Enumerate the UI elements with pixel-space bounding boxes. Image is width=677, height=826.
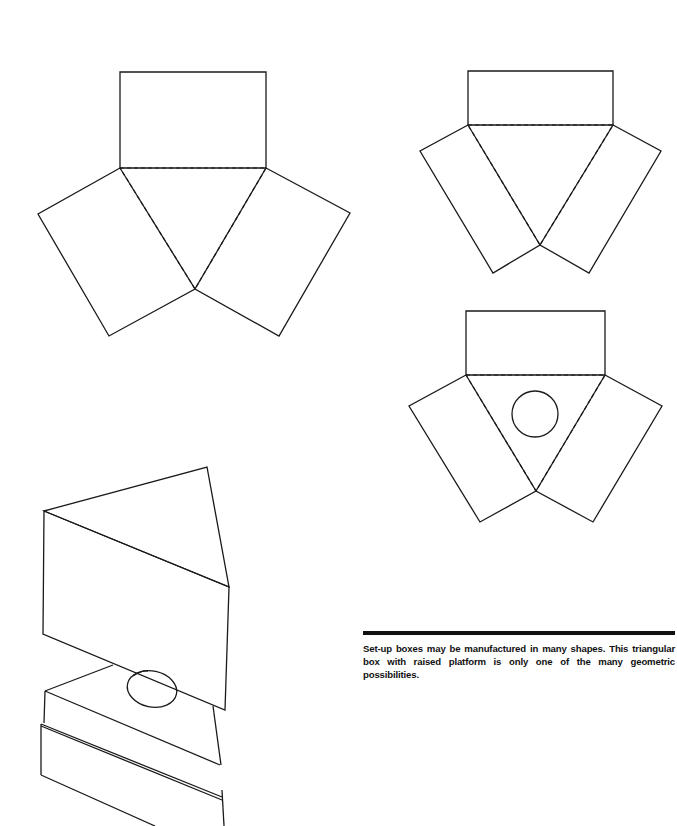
net-hole-top-panel: [466, 311, 605, 375]
net-large-fold-lines: [120, 168, 266, 289]
assembled-box: [41, 467, 229, 826]
base-lower-right-edge: [222, 790, 224, 826]
base-upper-right-edge: [213, 706, 221, 765]
base-ledge-line-2: [41, 726, 222, 800]
net-small-fold-lines: [468, 125, 613, 245]
net-small: [420, 71, 661, 273]
lid-top-face: [44, 467, 229, 587]
net-large: [38, 72, 350, 336]
platform-circle-opening: [124, 666, 180, 712]
base-ledge-line-1: [41, 724, 222, 797]
base-top-front-edge: [45, 691, 220, 765]
platform-hole-circle: [512, 391, 558, 437]
caption-rule: [363, 631, 675, 635]
caption-block: Set-up boxes may be manufactured in many…: [363, 631, 675, 681]
base-upper-left-edge: [44, 691, 45, 723]
net-small-top-panel: [468, 71, 613, 125]
caption-text: Set-up boxes may be manufactured in many…: [363, 642, 675, 681]
base-bottom-edge: [41, 775, 155, 826]
net-small-right-panel: [540, 125, 661, 273]
net-large-right-panel: [195, 168, 350, 336]
illustrations: [0, 0, 677, 826]
net-large-top-panel: [120, 72, 266, 168]
net-hole-left-panel: [409, 375, 536, 522]
base-top-edge-left: [45, 665, 113, 691]
net-hole-right-panel: [536, 375, 662, 522]
net-hole-fold-lines: [466, 375, 605, 491]
lid-front-face: [43, 511, 229, 710]
net-small-left-panel: [420, 125, 540, 273]
net-with-hole: [409, 311, 662, 522]
